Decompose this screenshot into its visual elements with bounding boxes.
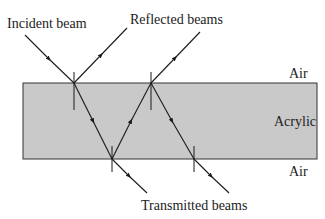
incident-beam-label: Incident beam — [7, 17, 87, 31]
air-top-label: Air — [289, 67, 308, 81]
air-bottom-label: Air — [289, 165, 308, 179]
reflected-beam-1 — [74, 55, 101, 83]
reflected-beam-2 — [151, 58, 175, 83]
acrylic-label: Acrylic — [274, 115, 316, 129]
transmitted-beam-2 — [194, 159, 211, 176]
transmitted-beams-label: Transmitted beams — [141, 199, 247, 213]
incident-beam — [25, 35, 49, 59]
diagram-canvas — [0, 0, 325, 219]
acrylic-slab — [23, 83, 317, 159]
transmitted-beam-1 — [112, 159, 129, 176]
reflected-beams-label: Reflected beams — [130, 13, 223, 27]
